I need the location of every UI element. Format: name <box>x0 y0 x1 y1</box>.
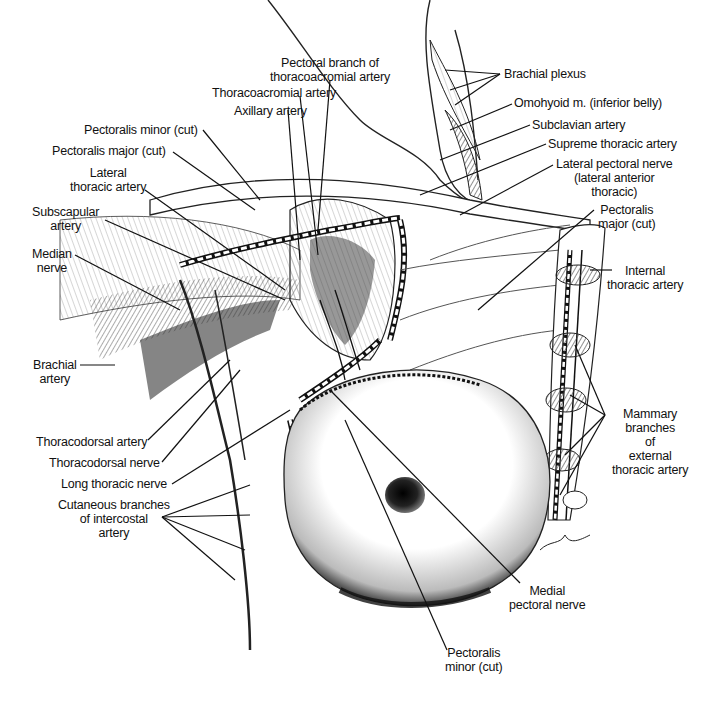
label-line: Pectoralis <box>445 646 503 660</box>
label-line: Pectoralis <box>598 203 656 217</box>
label-line: nerve <box>32 261 72 275</box>
label-pectoralis-major-cut-left: Pectoralis major (cut) <box>52 144 166 158</box>
label-pectoral-branch: Pectoral branch of thoracoacromial arter… <box>270 56 390 84</box>
label-median-nerve: Median nerve <box>32 247 72 275</box>
label-internal-thoracic-artery: Internal thoracic artery <box>607 264 683 292</box>
label-line: Median <box>32 247 72 261</box>
label-line: artery <box>58 526 170 540</box>
signature-mark <box>540 535 590 550</box>
label-line: thoracic) <box>556 185 673 199</box>
label-mammary-branches: Mammary branches of external thoracic ar… <box>612 407 688 477</box>
label-lateral-pectoral-nerve: Lateral pectoral nerve (lateral anterior… <box>556 157 673 199</box>
label-omohyoid: Omohyoid m. (inferior belly) <box>514 96 662 110</box>
label-line: Pectoral branch of <box>270 56 390 70</box>
label-brachial-plexus: Brachial plexus <box>504 67 586 81</box>
sternum-region <box>544 225 605 520</box>
label-line: branches <box>612 421 688 435</box>
label-line: (lateral anterior <box>556 171 673 185</box>
label-line: major (cut) <box>598 217 656 231</box>
label-line: thoracic artery <box>607 278 683 292</box>
label-line: Mammary <box>612 407 688 421</box>
breast-shape <box>284 370 550 606</box>
nipple-shape <box>385 477 425 513</box>
label-pectoralis-minor-cut-bottom: Pectoralis minor (cut) <box>445 646 503 674</box>
label-thoracodorsal-nerve: Thoracodorsal nerve <box>49 456 160 470</box>
label-line: external <box>612 449 688 463</box>
label-pectoralis-major-cut-right: Pectoralis major (cut) <box>598 203 656 231</box>
label-line: thoracic artery <box>612 463 688 477</box>
rib-lines <box>400 225 570 370</box>
label-line: Internal <box>607 264 683 278</box>
label-medial-pectoral-nerve: Medial pectoral nerve <box>509 584 585 612</box>
arm-muscles <box>60 216 300 650</box>
label-thoracoacromial-artery: Thoracoacromial artery <box>212 86 336 100</box>
label-line: Subscapular <box>32 205 99 219</box>
label-line: Lateral pectoral nerve <box>556 157 673 171</box>
label-line: thoracic artery <box>70 180 146 194</box>
label-supreme-thoracic-artery: Supreme thoracic artery <box>548 137 677 151</box>
label-line: Brachial <box>33 358 77 372</box>
label-thoracodorsal-artery: Thoracodorsal artery <box>36 435 147 449</box>
label-line: of intercostal <box>58 512 170 526</box>
anatomy-figure: Pectoral branch of thoracoacromial arter… <box>0 0 717 708</box>
label-cutaneous-branches: Cutaneous branches of intercostal artery <box>58 498 170 540</box>
label-axillary-artery: Axillary artery <box>234 104 307 118</box>
label-subscapular-artery: Subscapular artery <box>32 205 99 233</box>
label-line: artery <box>33 372 77 386</box>
label-lateral-thoracic-artery: Lateral thoracic artery <box>70 166 146 194</box>
label-line: artery <box>32 219 99 233</box>
label-pectoralis-minor-cut-top: Pectoralis minor (cut) <box>84 123 198 137</box>
label-line: Cutaneous branches <box>58 498 170 512</box>
label-line: Lateral <box>70 166 146 180</box>
label-brachial-artery: Brachial artery <box>33 358 77 386</box>
label-subclavian-artery: Subclavian artery <box>532 118 625 132</box>
label-line: thoracoacromial artery <box>270 70 390 84</box>
label-line: Medial <box>509 584 585 598</box>
label-long-thoracic-nerve: Long thoracic nerve <box>61 477 167 491</box>
label-line: of <box>612 435 688 449</box>
label-line: pectoral nerve <box>509 598 585 612</box>
label-line: minor (cut) <box>445 660 503 674</box>
